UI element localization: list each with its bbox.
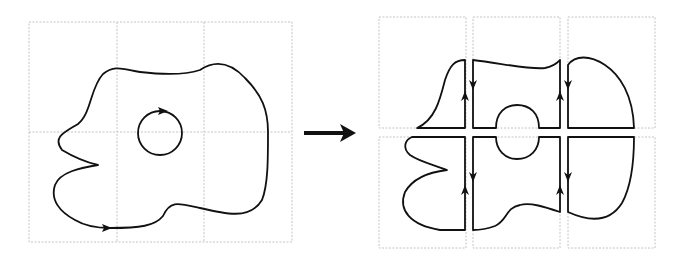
hole-curve — [138, 111, 182, 155]
decomposition-diagram — [0, 0, 682, 264]
cell-bottom-right — [564, 137, 634, 219]
left-panel — [29, 22, 292, 242]
cell-bottom-middle — [469, 137, 564, 230]
cell-top-left — [417, 60, 469, 128]
cell-top-middle — [469, 60, 564, 128]
diagram-canvas — [0, 0, 682, 264]
outer-boundary-curve — [54, 64, 268, 228]
right-panel — [379, 17, 655, 248]
transition-arrow-icon — [304, 124, 356, 142]
cell-top-right — [564, 58, 634, 129]
cell-bottom-left — [403, 137, 469, 230]
